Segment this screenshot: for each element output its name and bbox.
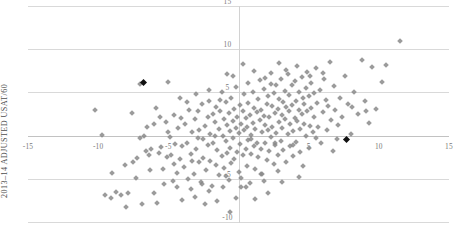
- data-point: [303, 85, 309, 91]
- data-point: [109, 170, 115, 176]
- data-point: [313, 135, 319, 141]
- data-point: [279, 179, 285, 185]
- data-point: [295, 118, 301, 124]
- y-tick-label: -10: [222, 213, 232, 222]
- data-point: [191, 172, 197, 178]
- data-point: [210, 111, 216, 117]
- data-point: [258, 107, 264, 113]
- data-point: [243, 184, 249, 190]
- data-point: [192, 194, 198, 200]
- data-point: [151, 121, 157, 127]
- data-point: [144, 124, 150, 130]
- data-point: [216, 173, 222, 179]
- data-point: [261, 86, 267, 92]
- data-point: [252, 166, 258, 172]
- data-point: [188, 151, 194, 157]
- data-point: [182, 122, 188, 128]
- data-point: [337, 95, 343, 101]
- data-point: [282, 116, 288, 122]
- data-point: [379, 79, 385, 85]
- data-point: [296, 90, 302, 96]
- data-point: [108, 195, 114, 201]
- data-point: [238, 121, 244, 127]
- data-point: [158, 144, 164, 150]
- data-point: [262, 75, 268, 81]
- data-point: [129, 110, 135, 116]
- data-point: [206, 98, 212, 104]
- data-point: [366, 120, 372, 126]
- data-point: [208, 158, 214, 164]
- data-point: [189, 129, 195, 135]
- x-tick-label: -10: [93, 142, 103, 151]
- data-point: [359, 57, 365, 63]
- data-point: [355, 111, 361, 117]
- data-point: [245, 100, 251, 106]
- data-point: [258, 146, 264, 152]
- data-point: [269, 124, 275, 130]
- x-tick-label: -15: [23, 142, 33, 151]
- data-point: [264, 102, 270, 108]
- data-point: [318, 141, 324, 147]
- y-tick-label: 10: [224, 40, 232, 49]
- y-axis-line: [239, 6, 240, 223]
- data-point: [262, 141, 268, 147]
- data-point: [212, 134, 218, 140]
- data-point: [196, 127, 202, 133]
- data-point: [325, 103, 331, 109]
- data-point: [125, 190, 131, 196]
- data-point: [238, 175, 244, 181]
- data-point: [349, 104, 355, 110]
- data-point: [223, 99, 229, 105]
- data-point: [227, 145, 233, 151]
- data-point: [258, 172, 264, 178]
- data-point: [217, 97, 223, 103]
- data-point: [187, 107, 193, 113]
- data-point: [276, 119, 282, 125]
- data-point: [260, 129, 266, 135]
- data-point: [281, 147, 287, 153]
- data-point: [306, 93, 312, 99]
- data-point: [224, 71, 230, 77]
- data-point: [163, 119, 169, 125]
- data-point: [265, 93, 271, 99]
- data-point: [330, 148, 336, 154]
- data-point: [244, 163, 250, 169]
- data-point: [265, 190, 271, 196]
- data-point: [209, 183, 215, 189]
- data-point: [227, 128, 233, 134]
- data-point: [219, 89, 225, 95]
- data-point: [303, 133, 309, 139]
- data-point: [271, 161, 277, 167]
- data-point: [276, 60, 282, 66]
- data-point: [278, 76, 284, 82]
- data-point: [149, 147, 155, 153]
- data-point: [174, 170, 180, 176]
- data-point: [342, 73, 348, 79]
- data-point: [243, 147, 249, 153]
- data-point: [311, 90, 317, 96]
- data-point: [178, 115, 184, 121]
- data-point: [307, 73, 313, 79]
- data-point: [195, 109, 201, 115]
- data-point: [215, 198, 221, 204]
- data-point: [118, 192, 124, 198]
- data-point: [267, 115, 273, 121]
- data-point: [184, 140, 190, 146]
- data-point: [309, 80, 315, 86]
- data-point: [331, 84, 337, 90]
- data-point: [185, 176, 191, 182]
- data-point: [133, 175, 139, 181]
- data-point: [383, 62, 389, 68]
- data-point: [177, 156, 183, 162]
- data-point: [335, 122, 341, 128]
- data-point: [167, 134, 173, 140]
- data-point: [122, 162, 128, 168]
- data-point: [363, 109, 369, 115]
- data-point: [230, 118, 236, 124]
- data-point: [219, 153, 225, 159]
- data-point: [240, 61, 246, 67]
- data-point: [147, 167, 153, 173]
- data-point: [283, 159, 289, 165]
- data-point: [397, 38, 403, 44]
